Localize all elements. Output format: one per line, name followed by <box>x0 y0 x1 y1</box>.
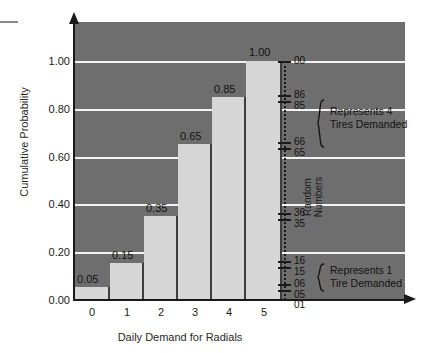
rn-label-00: 00 <box>294 56 305 66</box>
y-axis-line <box>73 22 75 301</box>
page-rule-mark <box>0 21 18 23</box>
rn-tick-35 <box>278 219 291 221</box>
bar-value-label-4: 0.85 <box>214 83 235 95</box>
x-axis-title: Daily Demand for Radials <box>75 331 285 343</box>
rn-tick-05 <box>278 290 291 292</box>
bar-value-label-0: 0.05 <box>77 273 98 285</box>
x-tick-label-0: 0 <box>75 306 109 318</box>
bar-demand-2 <box>144 216 178 300</box>
rn-label-01: 01 <box>294 300 305 310</box>
x-axis-line <box>73 299 406 301</box>
bar-value-label-5: 1.00 <box>249 46 270 58</box>
rn-label-06: 06 <box>294 279 305 289</box>
bar-demand-4 <box>212 97 246 300</box>
x-tick-label-5: 5 <box>247 306 281 318</box>
rn-tick-00 <box>278 61 291 63</box>
annotation-bottom-line2: Tire Demanded <box>330 277 402 289</box>
y-tick-label-0-60: 0.60 <box>24 152 70 163</box>
x-axis-arrow-icon <box>404 294 416 304</box>
random-numbers-title-line1: Random <box>302 178 313 216</box>
rn-label-85: 85 <box>294 101 305 111</box>
brace-top <box>314 99 326 149</box>
y-tick-label-0-00: 0.00 <box>24 295 70 306</box>
rn-tick-16 <box>278 261 291 263</box>
rn-tick-86 <box>278 95 291 97</box>
y-axis-arrow-icon <box>69 12 79 24</box>
annotation-bottom-line1: Represents 1 <box>330 264 392 276</box>
annotation-top: Represents 4 Tires Demanded <box>330 105 407 131</box>
annotation-top-line2: Tires Demanded <box>330 118 407 130</box>
y-tick-label-0-40: 0.40 <box>24 199 70 210</box>
rn-tick-65 <box>278 148 291 150</box>
y-tick-label-1-00: 1.00 <box>24 56 70 67</box>
rn-tick-66 <box>278 142 291 144</box>
rn-label-15: 15 <box>294 267 305 277</box>
rn-tick-36 <box>278 213 291 215</box>
bar-value-label-2: 0.35 <box>146 202 167 214</box>
rn-tick-06 <box>278 284 291 286</box>
x-tick-label-2: 2 <box>144 306 178 318</box>
x-tick-label-3: 3 <box>178 306 212 318</box>
y-tick-label-0-20: 0.20 <box>24 247 70 258</box>
cumulative-probability-chart: 0.05 0.15 0.35 0.65 0.85 1.00 1.00 0.80 … <box>0 0 425 353</box>
annotation-bottom: Represents 1 Tire Demanded <box>330 264 402 290</box>
rn-label-86: 86 <box>294 90 305 100</box>
rn-tick-01 <box>278 299 291 301</box>
gridline-1-00 <box>75 61 405 63</box>
rn-label-66: 66 <box>294 137 305 147</box>
rn-tick-85 <box>278 101 291 103</box>
bar-demand-1 <box>110 263 144 300</box>
x-tick-label-1: 1 <box>110 306 144 318</box>
brace-bottom <box>314 263 326 293</box>
rn-tick-15 <box>278 267 291 269</box>
bar-value-label-3: 0.65 <box>180 130 201 142</box>
random-numbers-axis-title: Random Numbers <box>302 154 324 240</box>
y-axis-title: Cumulative Probability <box>18 72 30 212</box>
random-numbers-title-line2: Numbers <box>313 177 324 218</box>
y-tick-label-0-80: 0.80 <box>24 104 70 115</box>
bar-value-label-1: 0.15 <box>112 249 133 261</box>
x-tick-label-4: 4 <box>212 306 246 318</box>
bar-demand-5 <box>246 61 282 300</box>
annotation-top-line1: Represents 4 <box>330 105 392 117</box>
bar-demand-3 <box>178 144 212 300</box>
rn-label-16: 16 <box>294 256 305 266</box>
